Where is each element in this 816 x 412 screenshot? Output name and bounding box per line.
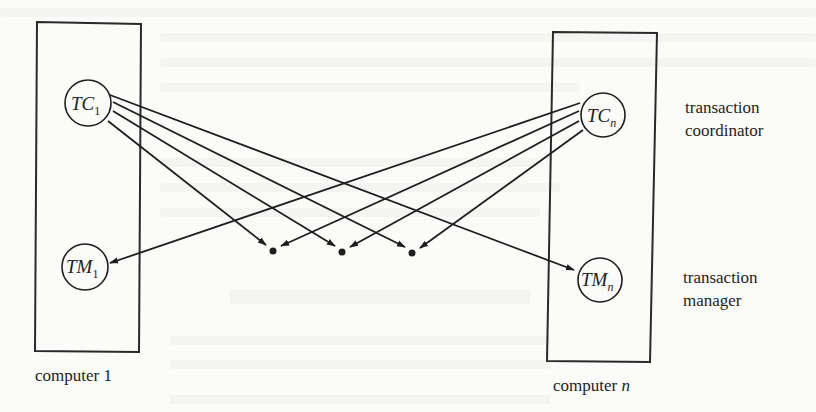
tcn-message-lines [110,103,583,263]
ellipsis-dot [270,248,277,255]
computer-n-box [547,32,657,362]
ellipsis-dots [270,248,416,257]
tm1-subscript: 1 [92,267,98,281]
tcn-node: TCn [581,93,625,137]
ellipsis-dot [409,250,416,257]
tcn-subscript: n [610,116,616,130]
tmn-name: TM [581,269,609,290]
tm1-node: TM1 [62,244,108,290]
tc1-message-lines [108,95,574,270]
computer-1-box [35,22,141,352]
ellipsis-dot [339,249,346,256]
tmn-subscript: n [607,280,613,294]
tc1-subscript: 1 [94,104,100,118]
svg-text:transaction: transaction [683,268,758,287]
tm1-name: TM [66,256,94,277]
computer-1-label: computer 1 [35,366,112,385]
distributed-transaction-diagram: TC1 TM1 TCn TMn transaction coordinator … [0,0,816,412]
tcn-name: TC [587,105,611,126]
svg-text:coordinator: coordinator [685,121,764,140]
computer-n-label: computer n [553,376,630,395]
coordinator-side-label: transaction coordinator [685,98,764,140]
svg-text:transaction: transaction [685,98,760,117]
tmn-node: TMn [578,258,622,302]
manager-side-label: transaction manager [683,268,758,310]
svg-text:manager: manager [683,291,742,310]
tc1-name: TC [71,93,95,114]
tc1-node: TC1 [65,80,111,126]
